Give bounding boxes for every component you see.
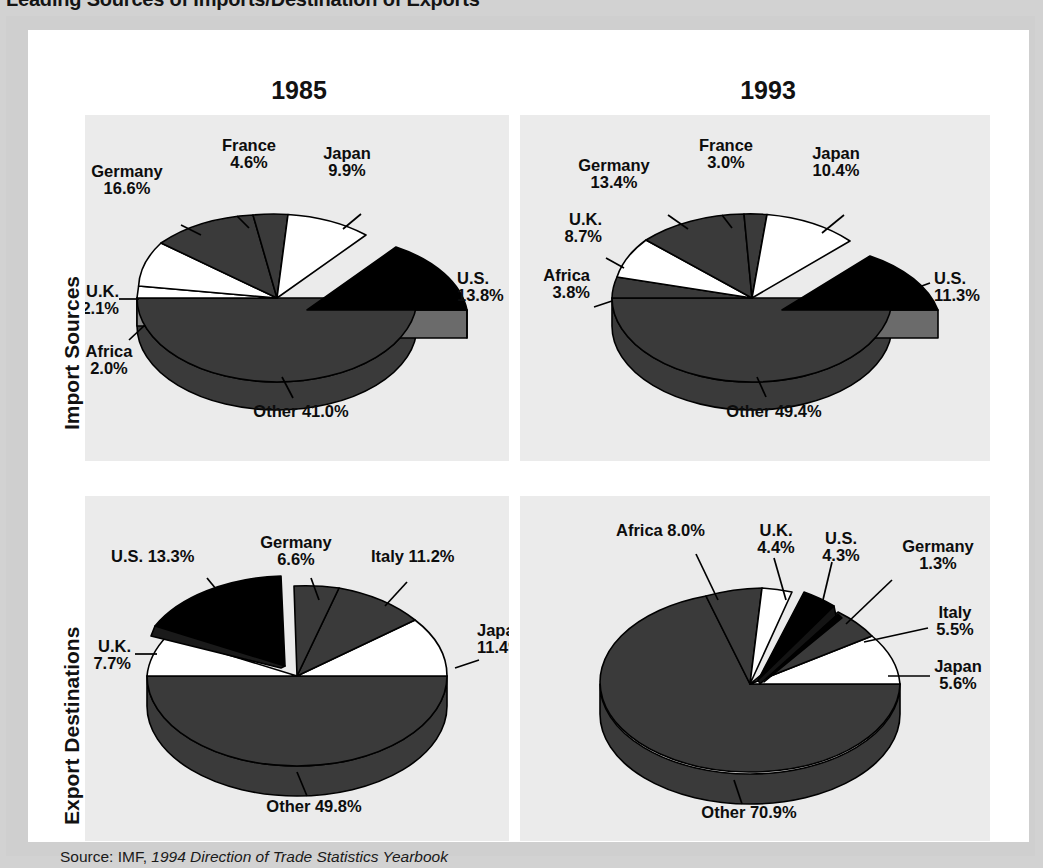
chart-panel-exports-1985: U.S. 13.3% Germany 6.6% Italy 11.2% Japa… [85, 496, 509, 841]
figure-page: Leading Sources of Imports/Destination o… [0, 0, 1043, 868]
pie-label-other-1993-imports: Other 49.4% [704, 403, 844, 420]
label-value: 11.3% [934, 286, 980, 304]
pie-label-africa-1985-imports: Africa 2.0% [85, 343, 149, 377]
label-country: U.S. [457, 269, 489, 287]
pie-label-france-1993-imports: France 3.0% [680, 137, 772, 171]
pie-label-germany-1993-exports: Germany 1.3% [886, 538, 990, 572]
label-country: U.S. [934, 269, 966, 287]
label-value: 13.4% [591, 173, 638, 191]
source-prefix: Source: IMF, [60, 848, 151, 865]
label-country: France [222, 136, 276, 154]
pie-label-japan-1993-imports: Japan 10.4% [792, 145, 880, 179]
label-value: 6.6% [277, 550, 315, 568]
chart-panel-imports-1985: France 4.6% Japan 9.9% Germany 16.6% U.S… [85, 115, 509, 461]
label-country: France [699, 136, 753, 154]
label-country: Germany [578, 156, 650, 174]
row-label-import-sources: Import Sources [60, 276, 84, 430]
label-value: 4.4% [757, 538, 795, 556]
pie-label-japan-1993-exports: Japan 5.6% [920, 658, 990, 692]
chart-panel-exports-1993: Africa 8.0% U.K. 4.4% U.S. 4.3% Germany … [520, 496, 990, 841]
pie-label-germany-1985-exports: Germany 6.6% [241, 534, 351, 568]
label-value: 10.4% [813, 161, 860, 179]
pie-label-italy-1985-exports: Italy 11.2% [371, 548, 454, 565]
label-value: 5.5% [936, 620, 974, 638]
pie-label-us-1993-imports: U.S. 11.3% [934, 270, 980, 304]
column-header-1993: 1993 [668, 76, 868, 105]
pie-label-germany-1985-imports: Germany 16.6% [85, 163, 177, 197]
label-value: 12.1% [85, 299, 119, 317]
label-country: U.K. [569, 210, 602, 228]
figure-title: Leading Sources of Imports/Destination o… [6, 0, 480, 11]
label-value: 2.0% [90, 359, 128, 377]
label-value: 13.8% [457, 286, 504, 304]
label-country: Germany [902, 537, 974, 555]
pie-label-us-1985-exports: U.S. 13.3% [111, 548, 194, 565]
pie-label-japan-1985-exports: Japan 11.4% [477, 622, 509, 656]
chart-panel-imports-1993: France 3.0% Japan 10.4% Germany 13.4% U.… [520, 115, 990, 461]
source-title: 1994 Direction of Trade Statistics Yearb… [151, 848, 448, 865]
figure-inner-canvas: 1985 1993 Import Sources Export Destinat… [28, 30, 1029, 842]
label-value: 4.3% [822, 546, 860, 564]
pie-label-france-1985-imports: France 4.6% [203, 137, 295, 171]
label-country: Germany [91, 162, 163, 180]
pie-label-germany-1993-imports: Germany 13.4% [562, 157, 666, 191]
pie-label-uk-1985-imports: U.K. 12.1% [85, 283, 119, 317]
row-label-export-destinations: Export Destinations [60, 627, 84, 825]
pie-label-uk-1985-exports: U.K. 7.7% [85, 638, 131, 672]
label-country: Italy [938, 603, 971, 621]
pie-label-us-1993-exports: U.S. 4.3% [806, 530, 876, 564]
label-value: 11.4% [477, 638, 509, 656]
pie-label-other-1985-imports: Other 41.0% [231, 403, 371, 420]
label-value: 9.9% [328, 161, 366, 179]
column-header-1985: 1985 [199, 76, 399, 105]
label-value: 7.7% [93, 654, 131, 672]
pie-label-other-1985-exports: Other 49.8% [243, 798, 385, 815]
label-value: 3.0% [707, 153, 745, 171]
label-country: U.K. [98, 637, 131, 655]
label-country: Germany [260, 533, 332, 551]
label-country: U.K. [760, 521, 793, 539]
pie-label-uk-1993-exports: U.K. 4.4% [740, 522, 812, 556]
pie-label-italy-1993-exports: Italy 5.5% [920, 604, 990, 638]
pie-label-africa-1993-exports: Africa 8.0% [616, 522, 705, 539]
figure-frame: 1985 1993 Import Sources Export Destinat… [6, 16, 1035, 856]
pie-label-japan-1985-imports: Japan 9.9% [305, 145, 389, 179]
label-country: Africa [543, 266, 590, 284]
pie-label-uk-1993-imports: U.K. 8.7% [526, 211, 602, 245]
source-note: Source: IMF, 1994 Direction of Trade Sta… [60, 848, 448, 866]
label-value: 3.8% [552, 283, 590, 301]
label-country: Japan [934, 657, 982, 675]
label-value: 1.3% [919, 554, 957, 572]
label-value: 5.6% [939, 674, 977, 692]
label-value: 8.7% [564, 227, 602, 245]
label-country: Japan [323, 144, 371, 162]
label-country: Africa [86, 342, 133, 360]
label-country: Japan [812, 144, 860, 162]
label-country: Japan [477, 621, 509, 639]
pie-label-africa-1993-imports: Africa 3.8% [520, 267, 590, 301]
label-value: 4.6% [230, 153, 268, 171]
label-country: U.S. [825, 529, 857, 547]
pie-label-other-1993-exports: Other 70.9% [678, 804, 820, 821]
label-value: 16.6% [104, 179, 151, 197]
label-country: U.K. [86, 282, 119, 300]
pie-label-us-1985-imports: U.S. 13.8% [457, 270, 504, 304]
